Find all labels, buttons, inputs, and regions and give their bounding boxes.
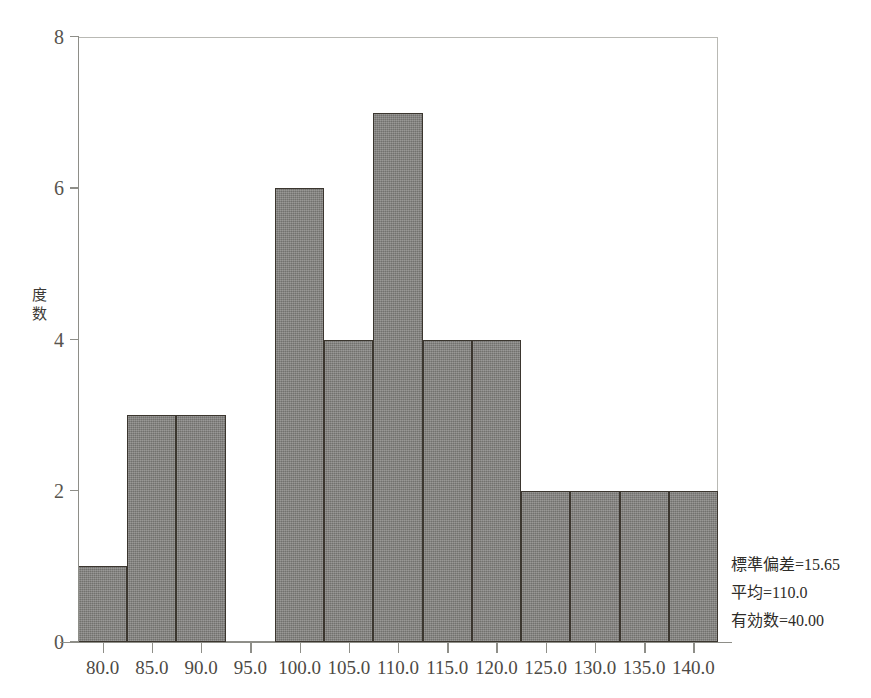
histogram-bar bbox=[570, 491, 619, 642]
y-tick-mark bbox=[70, 339, 79, 340]
histogram-bar bbox=[620, 491, 669, 642]
x-tick-mark bbox=[201, 642, 202, 653]
x-tick-mark bbox=[300, 642, 301, 653]
statistics-annotation: 標準偏差=15.65 平均=110.0 有効数=40.00 bbox=[731, 551, 840, 635]
x-tick-mark bbox=[595, 642, 596, 653]
y-tick-mark bbox=[70, 36, 79, 37]
y-tick-mark bbox=[70, 490, 79, 491]
histogram-bar bbox=[373, 113, 422, 642]
x-tick-label: 140.0 bbox=[663, 656, 723, 680]
y-tick-label: 6 bbox=[28, 177, 64, 199]
stat-std-dev: 標準偏差=15.65 bbox=[731, 551, 840, 579]
histogram-bar bbox=[176, 415, 225, 642]
y-axis-title: 度数 bbox=[26, 286, 52, 324]
x-tick-mark bbox=[496, 642, 497, 653]
histogram-bar bbox=[423, 340, 472, 643]
y-axis-title-char: 度 bbox=[26, 286, 52, 305]
x-tick-mark bbox=[398, 642, 399, 653]
y-tick-label: 0 bbox=[28, 631, 64, 653]
y-tick-label: 2 bbox=[28, 480, 64, 502]
histogram-page: 86420 度数 80.085.090.095.0100.0105.0110.0… bbox=[0, 0, 871, 698]
histogram-bar bbox=[127, 415, 176, 642]
y-axis-title-char: 数 bbox=[26, 305, 52, 324]
stat-valid-n: 有効数=40.00 bbox=[731, 607, 840, 635]
y-axis-line bbox=[78, 37, 79, 643]
x-tick-mark bbox=[349, 642, 350, 653]
x-tick-mark bbox=[447, 642, 448, 653]
stat-mean: 平均=110.0 bbox=[731, 579, 840, 607]
y-tick-mark bbox=[70, 187, 79, 188]
histogram-bar bbox=[275, 188, 324, 642]
y-axis-ticks: 86420 bbox=[0, 0, 78, 698]
histogram-bar bbox=[669, 491, 718, 642]
histogram-bar bbox=[472, 340, 521, 643]
x-axis-ticks: 80.085.090.095.0100.0105.0110.0115.0120.… bbox=[78, 642, 718, 698]
y-tick-label: 8 bbox=[28, 26, 64, 48]
x-tick-mark bbox=[250, 642, 251, 653]
x-tick-mark bbox=[152, 642, 153, 653]
histogram-bar bbox=[324, 340, 373, 643]
histogram-bars bbox=[78, 37, 718, 642]
x-tick-mark bbox=[103, 642, 104, 653]
histogram-bar bbox=[521, 491, 570, 642]
histogram-bar bbox=[78, 566, 127, 642]
x-tick-mark bbox=[693, 642, 694, 653]
x-tick-mark bbox=[644, 642, 645, 653]
y-tick-label: 4 bbox=[28, 329, 64, 351]
x-tick-mark bbox=[546, 642, 547, 653]
